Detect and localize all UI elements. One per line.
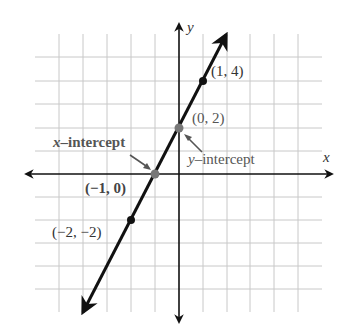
x-axis-label: x: [322, 149, 330, 165]
label-point-0-2: (0, 2): [192, 110, 225, 127]
label-point-neg2-neg2: (−2, −2): [52, 224, 101, 241]
y-axis-label: y: [185, 19, 194, 35]
label-point-neg1-0: (−1, 0): [85, 180, 126, 197]
point-neg2-neg2: [127, 216, 135, 224]
y-intercept-annotation: y–intercept: [186, 151, 255, 167]
x-intercept-annotation: x–intercept: [52, 134, 125, 150]
point-1-4: [199, 77, 207, 85]
y-intercept-arrow: [184, 134, 202, 152]
label-point-1-4: (1, 4): [211, 63, 244, 80]
x-intercept-arrow: [130, 155, 151, 170]
point-neg1-0-x-intercept: [151, 170, 160, 179]
point-0-2-y-intercept: [175, 124, 184, 133]
linear-graph: x y (1, 4) (0, 2) (−1, 0) (−2, −2) x–int…: [0, 0, 350, 334]
